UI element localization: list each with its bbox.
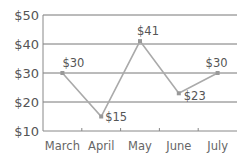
series-line	[60, 39, 219, 118]
series-polyline	[62, 41, 217, 116]
data-point-marker	[216, 71, 220, 75]
data-label: $30	[206, 56, 228, 70]
y-tick-label: $20	[14, 95, 39, 110]
data-label: $30	[62, 56, 84, 70]
y-tick-label: $30	[14, 66, 39, 81]
data-label: $15	[105, 110, 127, 124]
data-point-marker	[177, 91, 181, 95]
x-axis: MarchAprilMayJuneJuly	[43, 128, 237, 153]
x-tick-label: April	[88, 139, 114, 153]
data-point-marker	[99, 115, 103, 119]
data-point-marker	[60, 71, 64, 75]
data-labels: $30$15$41$23$30	[62, 24, 227, 123]
y-axis: $50$40$30$20$10	[14, 8, 43, 139]
data-label: $23	[184, 89, 206, 103]
line-chart: $50$40$30$20$10 MarchAprilMayJuneJuly $3…	[0, 0, 241, 162]
x-tick-label: May	[128, 139, 152, 153]
data-label: $41	[137, 24, 159, 38]
y-tick-label: $10	[14, 124, 39, 139]
x-tick-label: July	[206, 139, 228, 153]
y-tick-label: $40	[14, 37, 39, 52]
x-tick-label: March	[45, 139, 80, 153]
y-tick-label: $50	[14, 8, 39, 23]
data-point-marker	[138, 39, 142, 43]
x-tick-label: June	[165, 139, 191, 153]
